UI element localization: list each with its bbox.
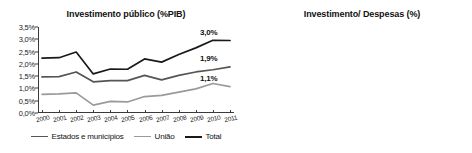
x-axis-tick-label: 2009	[189, 114, 204, 124]
legend-item-label: Estados e municípios	[52, 132, 124, 141]
x-axis-tick-label: 2000	[35, 114, 50, 124]
x-axis-tick-label: 2005	[121, 114, 136, 124]
data-point-label: 1,9%	[200, 53, 217, 62]
legend-item-label: Total	[206, 132, 222, 141]
x-axis-tick-label: 2008	[172, 114, 187, 124]
legend-line-icon	[31, 136, 48, 137]
chart-panel-investimento-despesas: Investimento/ Despesas (%) 0,01,02,03,04…	[252, 0, 472, 153]
legend-line-icon	[134, 136, 151, 137]
figure-container: Investimento público (%PIB) 0,0%0,5%1,0%…	[0, 0, 472, 153]
x-axis-tick-label: 2004	[104, 114, 119, 124]
data-point-label: 3,0%	[200, 27, 217, 36]
x-axis-tick-label: 2007	[155, 114, 170, 124]
legend-item[interactable]: Total	[185, 132, 222, 141]
chart-legend: Estados e municípiosUniãoTotal	[0, 132, 252, 141]
legend-item-label: União	[155, 132, 175, 141]
x-axis-tick-label: 2010	[206, 114, 221, 124]
series-line	[42, 84, 230, 106]
x-axis-tick-label: 2002	[69, 114, 84, 124]
x-axis-tick-label: 2001	[52, 114, 67, 124]
chart-title-left: Investimento público (%PIB)	[0, 9, 252, 19]
chart-title-right: Investimento/ Despesas (%)	[252, 9, 472, 19]
data-point-label: 1,1%	[200, 73, 217, 82]
x-axis-tick-label: 2011	[224, 114, 238, 124]
legend-item[interactable]: União	[134, 132, 175, 141]
series-layer	[38, 27, 234, 113]
chart-panel-investimento-publico: Investimento público (%PIB) 0,0%0,5%1,0%…	[0, 0, 252, 153]
x-axis-tick-label: 2003	[87, 114, 102, 124]
legend-line-icon	[185, 136, 202, 138]
x-axis-tick-label: 2006	[138, 114, 153, 124]
plot-area-left: 0,0%0,5%1,0%1,5%2,0%2,5%3,0%3,5%20002001…	[38, 27, 234, 113]
legend-item[interactable]: Estados e municípios	[31, 132, 124, 141]
